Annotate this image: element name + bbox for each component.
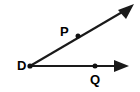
label-p: P — [60, 24, 69, 39]
point-p-dot — [76, 34, 81, 39]
label-d: D — [17, 58, 26, 73]
geometry-canvas: D P Q — [0, 0, 140, 92]
vertex-point-d-dot — [27, 63, 32, 68]
geometry-diagram: D P Q — [0, 0, 140, 92]
label-q: Q — [90, 72, 100, 87]
point-q-dot — [93, 64, 98, 69]
